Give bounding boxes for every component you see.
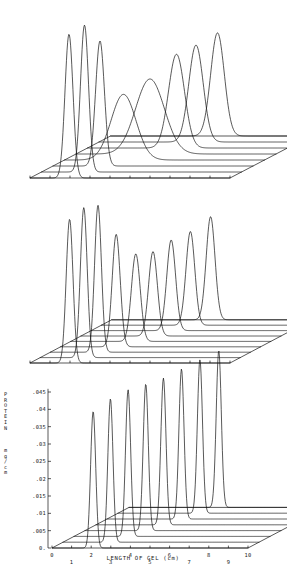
x-axis-tick-label: 9 [227, 559, 230, 565]
y-axis-title-protein: PROTEIN [1, 392, 10, 431]
y-axis-tick-label: .035 [32, 424, 46, 430]
y-axis-tick-label: .04 [36, 406, 46, 412]
trace-line [129, 351, 287, 507]
y-axis-tick-label: .03 [36, 441, 46, 447]
x-axis-tick-label: 1 [70, 559, 73, 565]
trace-line [85, 385, 281, 531]
trace-line [42, 25, 242, 172]
waterfall-figure: 0..005.01.015.02.025.03.035.04.045 01234… [0, 0, 287, 566]
trace-line [52, 412, 248, 548]
panel-bottom-svg: 0..005.01.015.02.025.03.035.04.045 01234… [0, 370, 287, 566]
y-axis-tick-label: .02 [36, 476, 46, 482]
panel-middle [0, 185, 287, 375]
panel-top-traces [30, 25, 287, 178]
x-axis-title: LENGTH OF GEL (cm) [106, 555, 179, 561]
panel-middle-svg [0, 185, 287, 375]
x-axis-tick-label: 0 [50, 552, 53, 558]
panel-bottom: 0..005.01.015.02.025.03.035.04.045 01234… [0, 370, 287, 566]
y-axis-tick-label: .01 [36, 510, 46, 516]
trace-line [50, 205, 250, 352]
y-axis-tick-label: .045 [32, 389, 46, 395]
panel-bottom-traces [52, 351, 287, 548]
panel-middle-traces [30, 205, 287, 363]
y-axis-tick-label: 0. [39, 545, 46, 551]
x-axis-tick-label: 8 [207, 552, 210, 558]
trace-line [74, 390, 270, 537]
y-axis-title-units: mg/cm [1, 448, 10, 476]
y-axis-tick-label: .005 [32, 528, 46, 534]
y-axis-tick-label: .015 [32, 493, 46, 499]
y-axis-title-letter: N [1, 426, 10, 432]
y-axis: 0..005.01.015.02.025.03.035.04.045 [32, 389, 51, 551]
x-axis-tick-label: 2 [89, 552, 92, 558]
x-axis-tick-label: 7 [187, 559, 190, 565]
y-axis-tick-label: .025 [32, 458, 46, 464]
trace-line [112, 217, 287, 320]
trace-line [71, 254, 271, 341]
panel-top-svg [0, 0, 287, 190]
y-axis-title-letter: m [1, 470, 10, 476]
trace-line [61, 235, 261, 347]
trace-line [30, 34, 230, 178]
trace-line [111, 33, 288, 136]
panel-top [0, 0, 287, 190]
trace-line [99, 45, 287, 142]
trace-line [96, 378, 287, 525]
x-axis-tick-label: 10 [245, 552, 252, 558]
